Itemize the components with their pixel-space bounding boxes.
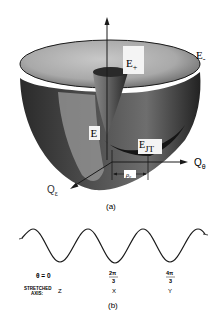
- tick-2pi3-denominator: 3: [112, 278, 115, 284]
- cone-opening: [93, 67, 128, 77]
- tick-2pi3-numerator: 2π: [109, 270, 117, 276]
- panel-a-caption: (a): [106, 202, 116, 211]
- stretched-label-line2: AXIS:: [31, 291, 44, 296]
- q-epsilon-label: Qε: [47, 184, 58, 197]
- curve-end-left: [19, 238, 23, 239]
- tick-4pi3-numerator: 4π: [166, 270, 174, 276]
- axis-x-label: X: [112, 288, 116, 294]
- panel-b-caption: (b): [108, 301, 118, 310]
- jahn-teller-figure: E+ E- E EJT Qθ ρ₀ Qε: [0, 0, 222, 324]
- e-label: E: [91, 127, 98, 139]
- panel-b: θ = 0 2π 3 4π 3 STRETCHED AXIS: Z X Y (b…: [19, 229, 208, 310]
- theta-zero-label: θ = 0: [36, 272, 51, 279]
- q-theta-arrow-icon: [180, 160, 188, 165]
- panel-a: E+ E- E EJT Qθ ρ₀ Qε: [20, 17, 206, 211]
- q-theta-label: Qθ: [194, 157, 206, 170]
- tick-4pi3-denominator: 3: [169, 278, 172, 284]
- axis-z-label: Z: [58, 288, 62, 294]
- curve-end-right: [203, 234, 208, 235]
- potential-curve: [22, 229, 205, 263]
- rho0-label: ρ₀: [125, 171, 131, 178]
- axis-y-label: Y: [168, 288, 172, 294]
- energy-axis-arrow-icon: [105, 17, 110, 25]
